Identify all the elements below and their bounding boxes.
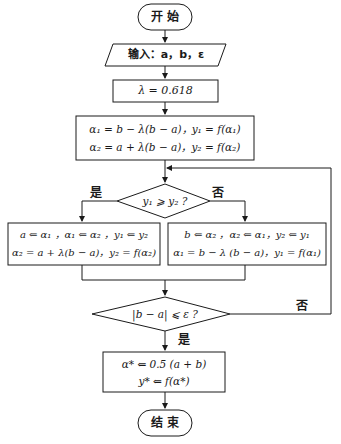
decision1-label: y₁ ⩾ y₂ ? — [125, 194, 205, 208]
start-label: 开 始 — [138, 10, 192, 24]
decision2-no-label: 否 — [294, 299, 310, 313]
result-line2: y* ⇐ f(α*) — [103, 374, 225, 388]
decision2-label: |b − a| ⩽ ε ? — [110, 307, 220, 321]
result-line1: α* ⇐ 0.5 (a + b) — [103, 357, 225, 371]
lambda-label: λ = 0.618 — [113, 84, 218, 98]
left-box-line1: a ⇐ α₁ ，α₁ ⇐ α₂ ，y₁ ⇐ y₂ — [8, 228, 160, 242]
decision1-yes-label: 是 — [88, 186, 104, 200]
right-box-line2: α₁ = b − λ (b − a)，y₁ = f(α₁) — [168, 246, 326, 260]
init-line1: α₁ = b − λ(b − a)，y₁ = f(α₁) — [76, 122, 254, 136]
right-box-line1: b ⇐ α₂ ，α₂ ⇐ α₁，y₂ ⇐ y₁ — [168, 228, 326, 242]
init-line2: α₂ = a + λ(b − a)，y₂ = f(α₂) — [76, 140, 254, 154]
end-label: 结 束 — [138, 416, 192, 430]
input-label: 输入：a，b，ε — [108, 48, 224, 62]
decision1-no-label: 否 — [210, 186, 226, 200]
left-box-line2: α₂ = a + λ(b − a)，y₂ = f(α₂) — [8, 246, 160, 260]
decision2-yes-label: 是 — [176, 333, 192, 347]
